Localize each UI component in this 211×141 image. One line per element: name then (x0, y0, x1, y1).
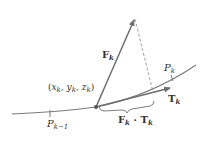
projection-brace (99, 101, 154, 113)
force-vector-arrow (96, 20, 134, 107)
point-xk-yk-zk (94, 105, 98, 109)
tangent-vector-label: Tk (168, 94, 180, 105)
coordinates-label: (xk, yk, zk) (48, 83, 94, 94)
diagram-graphics (0, 0, 211, 141)
dot-product-label: Fk · Tk (118, 115, 153, 126)
force-vector-label: Fk (102, 50, 114, 61)
projection-dashed-line (135, 19, 153, 92)
tangent-vector-arrow (96, 88, 170, 107)
point-pk-label: Pk (164, 63, 175, 75)
work-diagram: Fk Pk Tk (xk, yk, zk) Pk−1 Fk · Tk (0, 0, 211, 141)
point-pk-minus-1-label: Pk−1 (47, 119, 68, 131)
